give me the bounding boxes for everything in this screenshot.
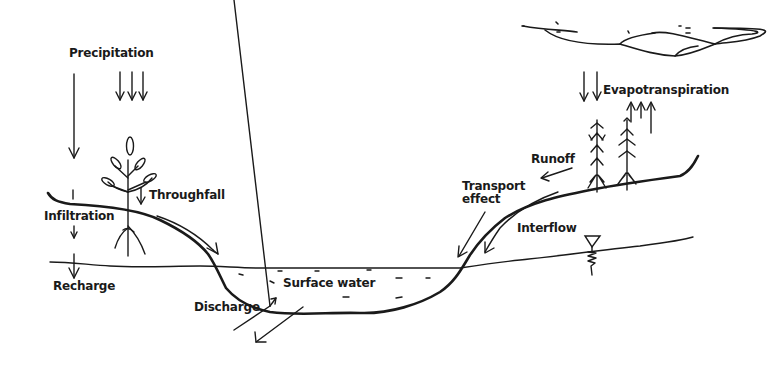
- label-surface-water: Surface water: [283, 277, 375, 290]
- label-transport-effect: effect: [462, 193, 500, 206]
- water-table-symbol-icon: [585, 236, 600, 275]
- evapotranspiration-arrows: [580, 72, 655, 133]
- label-interflow: Interflow: [517, 222, 577, 235]
- crop-plant-2-icon: [618, 118, 636, 190]
- label-throughfall: Throughfall: [149, 189, 225, 202]
- cloud-icon: [522, 22, 765, 56]
- label-infiltration: Infiltration: [44, 210, 114, 223]
- precipitation-arrows: [69, 72, 147, 158]
- label-runoff: Runoff: [531, 153, 575, 166]
- transport-effect-arrow: [458, 212, 485, 257]
- recharge-arrow: [69, 254, 79, 278]
- hydrologic-cycle-diagram: Precipitation Evapotranspiration Through…: [0, 0, 767, 382]
- label-evapotranspiration: Evapotranspiration: [603, 84, 729, 97]
- discharge-arrows: [234, 0, 303, 342]
- runoff-arrow: [541, 168, 572, 181]
- label-discharge: Discharge: [194, 301, 260, 314]
- crop-plant-1-icon: [588, 120, 606, 192]
- label-precipitation: Precipitation: [69, 47, 154, 60]
- label-recharge: Recharge: [53, 280, 115, 293]
- throughfall-arrow: [137, 188, 145, 204]
